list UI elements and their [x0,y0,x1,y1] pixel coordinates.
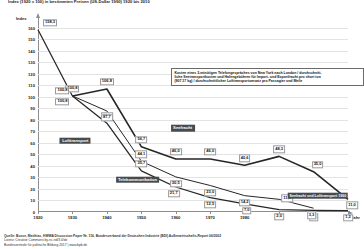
x-axis-tick-label: 1960 [171,215,180,220]
data-label: 46,0 [170,148,182,155]
series-line-telekommunikation [38,30,348,211]
data-label: 48,3 [273,146,285,153]
data-label: 1,2 [343,214,353,221]
footer: Quelle: Busse, Matthias, HWWA Discussion… [4,234,360,247]
data-label: 44,1 [135,151,147,158]
series-lines [38,22,348,212]
footer-publisher: Bundeszentrale für politische Bildung 20… [4,243,360,247]
series-label-seefracht: Seefracht [171,125,195,132]
data-label: 100,8 [55,87,69,94]
series-label-telekommunikation: Telekommunikation [116,176,160,183]
y-axis-tick-label: 100 [28,94,35,99]
x-axis-tick-mark [210,212,211,214]
y-axis-tick-label: 30 [30,175,35,180]
y-axis-tick-label: 60 [30,140,35,145]
data-label: 3,3 [307,212,317,219]
y-axis-tick-label: 70 [30,129,35,134]
data-label: 87,7 [101,114,113,121]
data-label: 21,7 [168,190,180,197]
x-axis-tick-label: 1920 [33,215,42,220]
y-axis-tick-label: 90 [30,106,35,111]
x-axis-tick-label: 1930 [68,215,77,220]
data-label: 11,0 [346,202,358,209]
x-axis-tick-mark [176,212,177,214]
y-axis-tick-label: 50 [30,152,35,157]
data-label: 46,0 [204,148,216,155]
y-axis-tick-label: 80 [30,117,35,122]
series-label-lufttransport: Lufttransport [60,137,91,144]
data-label: 158,3 [43,19,57,26]
y-axis-tick-label: 110 [28,83,35,88]
data-label: 35,7 [135,160,147,167]
y-axis-arrow-icon [36,13,40,18]
data-label: 40,6 [239,155,251,162]
series-label-combined: Seefracht und Lufttransport 1960 [288,193,349,200]
annotation-line-3: (907,17 kg) / durchschnittlicher Lufttra… [174,79,360,83]
x-axis-tick-mark [38,212,39,214]
data-label: 56,7 [135,136,147,143]
chart-container: Index (1920 = 100) in bestimmten Preisen… [0,0,364,249]
x-axis-tick-label: 1980 [240,215,249,220]
data-label: 14,2 [239,199,251,206]
y-axis-tick-label: 130 [28,60,35,65]
x-axis-tick-mark [107,212,108,214]
y-axis-tick-label: 20 [30,186,35,191]
y-axis-tick-label: 120 [28,71,35,76]
data-label: 35,0 [312,161,324,168]
y-axis-tick-label: 10 [30,198,35,203]
x-axis-tick-label: 1950 [137,215,146,220]
y-axis-tick-label: 40 [30,163,35,168]
data-label: 106,8 [100,78,114,85]
x-axis-tick-mark [141,212,142,214]
y-axis-tick-label: 160 [28,25,35,30]
data-label: 100,8 [55,98,69,105]
y-axis-unit-label: Index [16,16,26,21]
data-label: 23,0 [204,189,216,196]
data-label: 12,5 [204,201,216,208]
x-axis-tick-mark [72,212,73,214]
data-label: 2,0 [274,213,284,220]
x-axis-tick-label: 1970 [206,215,215,220]
x-axis-tick-label: 1940 [102,215,111,220]
chart-title: Index (1920 = 100) in bestimmten Preisen… [8,0,358,4]
data-label: 7,0 [242,207,252,214]
plot-area: 0102030405060708090100110120130140150160… [38,22,348,212]
series-line-seefracht [72,89,348,199]
data-label: 30,5 [170,180,182,187]
y-axis-tick-label: 150 [28,37,35,42]
y-axis-tick-label: 140 [28,48,35,53]
annotation-box: Kosten eines 3-minütigen Telefongespräch… [171,68,364,86]
